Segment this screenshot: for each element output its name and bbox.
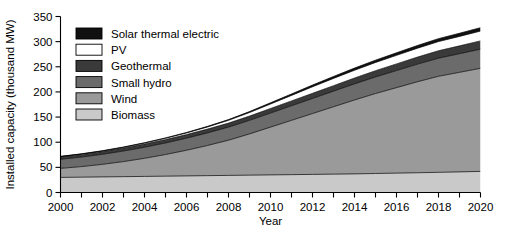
y-tick-label: 50 — [40, 161, 53, 173]
y-tick-label: 200 — [33, 86, 52, 98]
legend-swatch-wind — [76, 93, 102, 104]
legend-label: Biomass — [111, 109, 155, 121]
legend-item: Small hydro — [76, 77, 172, 89]
stacked-area-chart: 0501001502002503003502000200220042006200… — [0, 0, 506, 236]
y-axis-title: Installed capacity (thousand MW) — [4, 19, 16, 189]
x-tick-label: 2016 — [384, 201, 410, 213]
y-tick-label: 350 — [33, 11, 52, 23]
x-tick-label: 2020 — [468, 201, 494, 213]
x-tick-label: 2010 — [258, 201, 284, 213]
legend-swatch-pv — [76, 44, 102, 55]
x-tick-label: 2012 — [300, 201, 326, 213]
x-tick-label: 2000 — [48, 201, 74, 213]
legend-item: Biomass — [76, 109, 155, 121]
legend-swatch-solar-thermal-electric — [76, 28, 102, 39]
legend-item: PV — [76, 44, 127, 56]
x-axis-title: Year — [259, 215, 282, 227]
legend-item: Solar thermal electric — [76, 28, 219, 40]
legend-label: Solar thermal electric — [111, 28, 219, 40]
y-tick-label: 0 — [46, 187, 52, 199]
x-tick-label: 2002 — [90, 201, 116, 213]
y-tick-label: 150 — [33, 111, 52, 123]
legend: Solar thermal electricPVGeothermalSmall … — [76, 28, 219, 121]
x-tick-label: 2018 — [426, 201, 452, 213]
x-tick-label: 2006 — [174, 201, 200, 213]
y-tick-label: 100 — [33, 136, 52, 148]
x-tick-label: 2014 — [342, 201, 368, 213]
y-tick-label: 300 — [33, 36, 52, 48]
legend-label: PV — [111, 44, 127, 56]
legend-swatch-geothermal — [76, 60, 102, 71]
chart-container: 0501001502002503003502000200220042006200… — [0, 0, 506, 236]
legend-swatch-small-hydro — [76, 77, 102, 88]
x-tick-label: 2008 — [216, 201, 242, 213]
x-tick-label: 2004 — [132, 201, 158, 213]
legend-label: Wind — [111, 93, 137, 105]
legend-item: Geothermal — [76, 60, 171, 72]
legend-label: Geothermal — [111, 60, 171, 72]
legend-item: Wind — [76, 93, 137, 105]
y-tick-label: 250 — [33, 61, 52, 73]
legend-label: Small hydro — [111, 77, 172, 89]
legend-swatch-biomass — [76, 109, 102, 120]
